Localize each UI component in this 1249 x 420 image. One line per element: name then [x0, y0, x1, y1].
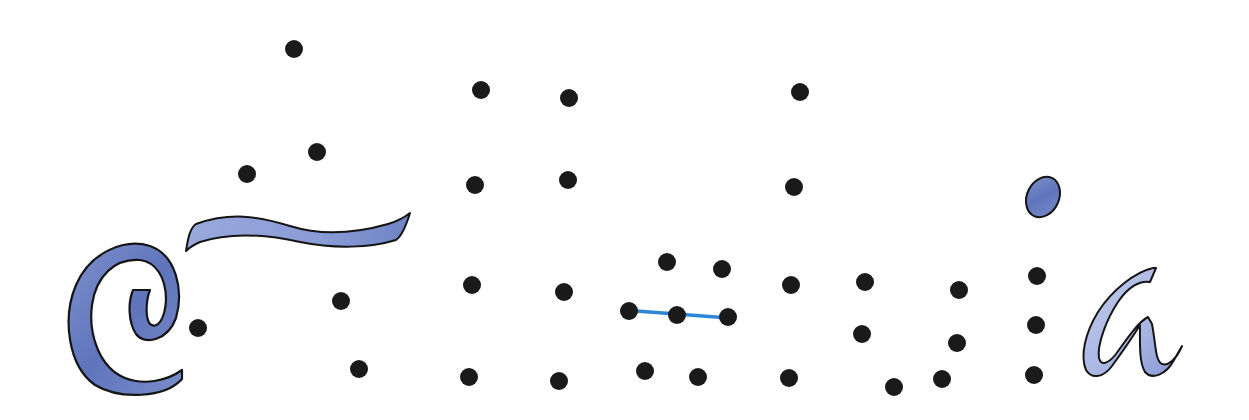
puzzle-dot[interactable] — [1025, 366, 1043, 384]
puzzle-dot[interactable] — [782, 276, 800, 294]
puzzle-dot[interactable] — [550, 372, 568, 390]
puzzle-dot[interactable] — [555, 283, 573, 301]
puzzle-dot[interactable] — [856, 273, 874, 291]
swirl-shape — [69, 244, 182, 395]
puzzle-dot[interactable] — [785, 178, 803, 196]
puzzle-dot[interactable] — [472, 81, 490, 99]
puzzle-dot[interactable] — [853, 325, 871, 343]
puzzle-dot[interactable] — [950, 281, 968, 299]
letter-a-shape — [1083, 268, 1182, 376]
puzzle-dot[interactable] — [1028, 267, 1046, 285]
puzzle-dot[interactable] — [636, 362, 654, 380]
puzzle-dot[interactable] — [791, 83, 809, 101]
puzzle-dot[interactable] — [1027, 316, 1045, 334]
puzzle-dot[interactable] — [350, 360, 368, 378]
puzzle-dot[interactable] — [466, 176, 484, 194]
puzzle-dot[interactable] — [713, 260, 731, 278]
puzzle-dot[interactable] — [719, 308, 737, 326]
puzzle-dot[interactable] — [620, 302, 638, 320]
puzzle-canvas: Dot-to-dot puzzle — [0, 0, 1249, 420]
puzzle-dot[interactable] — [948, 334, 966, 352]
dots-layer — [189, 40, 1046, 396]
puzzle-dot[interactable] — [668, 306, 686, 324]
puzzle-dot[interactable] — [463, 276, 481, 294]
puzzle-dot[interactable] — [658, 253, 676, 271]
puzzle-dot[interactable] — [933, 370, 951, 388]
puzzle-dot[interactable] — [460, 368, 478, 386]
oval-shape — [1020, 171, 1067, 223]
puzzle-dot[interactable] — [559, 171, 577, 189]
puzzle-dot[interactable] — [885, 378, 903, 396]
puzzle-dot[interactable] — [308, 143, 326, 161]
puzzle-dot[interactable] — [285, 40, 303, 58]
puzzle-artwork — [0, 0, 1249, 420]
puzzle-dot[interactable] — [332, 292, 350, 310]
puzzle-dot[interactable] — [689, 368, 707, 386]
puzzle-dot[interactable] — [780, 369, 798, 387]
ribbon-shape — [186, 213, 410, 251]
puzzle-dot[interactable] — [189, 319, 207, 337]
puzzle-dot[interactable] — [238, 165, 256, 183]
puzzle-dot[interactable] — [560, 89, 578, 107]
